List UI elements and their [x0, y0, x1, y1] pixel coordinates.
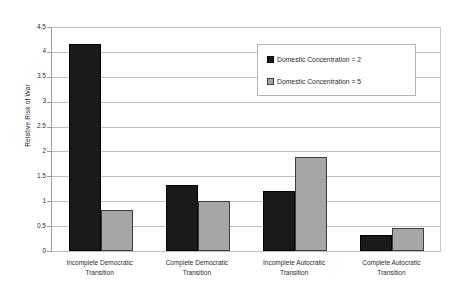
y-axis-tick-label: 4 — [6, 48, 46, 55]
y-axis-tick-mark — [47, 52, 51, 53]
bar-series-0-group-3 — [360, 235, 392, 251]
bar-chart: Relative Risk of War 00.511.522.533.544.… — [0, 0, 465, 299]
x-axis-category-label-0: Incomplete DemocraticTransition — [45, 258, 155, 277]
chart-legend: Domestic Concentration = 2 Domestic Conc… — [257, 44, 416, 96]
bar-series-0-group-2 — [263, 191, 295, 251]
y-axis-tick-mark — [47, 176, 51, 177]
gridline — [52, 201, 441, 202]
bar-series-1-group-0 — [101, 210, 133, 251]
legend-label-series-0: Domestic Concentration = 2 — [277, 56, 361, 63]
y-axis-tick-labels: 00.511.522.533.544.5 — [0, 0, 46, 299]
legend-swatch-icon-series-1 — [267, 78, 274, 85]
x-axis-label-line: Transition — [142, 268, 252, 278]
bar-series-0-group-0 — [69, 44, 101, 251]
x-axis-category-label-3: Complete AutocraticTransition — [336, 258, 446, 277]
y-axis-tick-label: 3 — [6, 98, 46, 105]
y-axis-tick-label: 4.5 — [6, 24, 46, 31]
legend-label-series-1: Domestic Concentration = 5 — [277, 78, 361, 85]
gridline — [52, 176, 441, 177]
gridline — [52, 102, 441, 103]
y-axis-tick-label: 1 — [6, 198, 46, 205]
x-axis-label-line: Transition — [336, 268, 446, 278]
y-axis-tick-mark — [47, 27, 51, 28]
y-axis-tick-label: 1.5 — [6, 173, 46, 180]
legend-item-series-0: Domestic Concentration = 2 — [267, 53, 361, 65]
legend-item-series-1: Domestic Concentration = 5 — [267, 75, 361, 87]
x-axis-label-line: Transition — [45, 268, 155, 278]
y-axis-tick-mark — [47, 251, 51, 252]
y-axis-tick-mark — [47, 77, 51, 78]
x-axis-category-label-1: Complete DemocraticTransition — [142, 258, 252, 277]
x-axis-label-line: Complete Autocratic — [336, 258, 446, 268]
y-axis-tick-label: 2.5 — [6, 123, 46, 130]
y-axis-tick-label: 0.5 — [6, 223, 46, 230]
y-axis-tick-mark — [47, 151, 51, 152]
bar-series-1-group-2 — [295, 157, 327, 251]
gridline — [52, 27, 441, 28]
plot-right-border — [440, 27, 441, 251]
y-axis-tick-label: 2 — [6, 148, 46, 155]
x-axis-label-line: Complete Democratic — [142, 258, 252, 268]
x-axis-label-line: Incomplete Autocratic — [239, 258, 349, 268]
y-axis-tick-mark — [47, 226, 51, 227]
bar-series-1-group-3 — [392, 228, 424, 251]
x-axis-category-label-2: Incomplete AutocraticTransition — [239, 258, 349, 277]
bar-series-0-group-1 — [166, 185, 198, 251]
y-axis-tick-mark — [47, 102, 51, 103]
gridline — [52, 151, 441, 152]
x-axis-label-line: Incomplete Democratic — [45, 258, 155, 268]
y-axis-tick-label: 0 — [6, 248, 46, 255]
x-axis-label-line: Transition — [239, 268, 349, 278]
legend-swatch-icon-series-0 — [267, 56, 274, 63]
gridline — [52, 251, 441, 252]
y-axis-tick-mark — [47, 201, 51, 202]
y-axis-tick-label: 3.5 — [6, 73, 46, 80]
y-axis-tick-mark — [47, 127, 51, 128]
bar-series-1-group-1 — [198, 201, 230, 251]
gridline — [52, 127, 441, 128]
